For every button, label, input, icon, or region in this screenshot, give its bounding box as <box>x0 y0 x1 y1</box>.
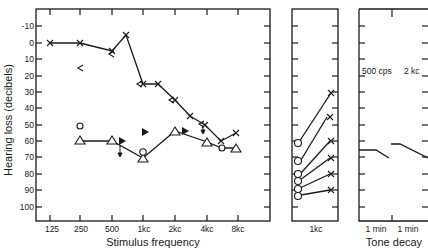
y-tick: 60 <box>25 136 35 146</box>
tone-decay-panel: 500 cps 2 kc 1 min 1 min Tone decay <box>359 9 428 248</box>
triangle-threshold-line <box>80 131 236 158</box>
air-conduction-x-markers <box>47 32 239 144</box>
y-axis-title: Hearing loss (decibels) <box>2 64 14 176</box>
y-tick: 100 <box>20 202 34 212</box>
y-tick: 40 <box>25 103 35 113</box>
tone-2k-label: 2 kc <box>404 66 420 76</box>
filled-triangle-markers <box>119 127 189 145</box>
tone-decay-ticks <box>359 26 428 207</box>
down-arrows <box>118 126 205 157</box>
left-ticks <box>36 26 42 207</box>
tone-decay-title: Tone decay <box>366 236 423 248</box>
bone-conduction-markers <box>78 51 204 127</box>
y-tick: -10 <box>22 21 35 31</box>
main-chart-frame <box>36 9 270 221</box>
top-ticks <box>50 9 238 15</box>
y-tick: 70 <box>25 152 35 162</box>
x-tick: 2kc <box>168 224 182 234</box>
tone-decay-min2-label: 1 min <box>398 224 419 234</box>
balance-lines <box>299 93 331 195</box>
tone-decay-2k-line <box>391 144 428 158</box>
y-tick: 0 <box>29 38 34 48</box>
y-tick-labels: -10 0 10 20 30 40 50 60 70 80 90 100 <box>20 21 34 212</box>
x-tick: 500 <box>105 224 119 234</box>
x-tick: 250 <box>74 224 88 234</box>
y-tick: 90 <box>25 185 35 195</box>
balance-circle-markers <box>295 140 302 200</box>
loudness-balance-panel: 1kc <box>292 9 338 234</box>
main-audiogram-panel: -10 0 10 20 30 40 50 60 70 80 90 100 125… <box>2 9 270 248</box>
x-axis-title: Stimulus frequency <box>106 236 200 248</box>
y-tick: 30 <box>25 87 35 97</box>
y-tick: 20 <box>25 71 35 81</box>
balance-x-label: 1kc <box>309 224 323 234</box>
x-tick: 125 <box>45 224 59 234</box>
tone-500-label: 500 cps <box>362 66 392 76</box>
y-tick: 50 <box>25 120 35 130</box>
x-tick: 8kc <box>231 224 245 234</box>
y-tick: 80 <box>25 169 35 179</box>
x-tick: 1kc <box>137 224 151 234</box>
y-tick: 10 <box>25 54 35 64</box>
audiogram-figure: -10 0 10 20 30 40 50 60 70 80 90 100 125… <box>0 0 428 252</box>
x-tick: 4kc <box>200 224 214 234</box>
tone-decay-min1-label: 1 min <box>366 224 387 234</box>
right-ticks <box>264 26 270 207</box>
bottom-ticks <box>50 215 238 221</box>
tone-decay-frame <box>359 9 428 221</box>
x-tick-labels: 125 250 500 1kc 2kc 4kc 8kc <box>45 224 245 234</box>
